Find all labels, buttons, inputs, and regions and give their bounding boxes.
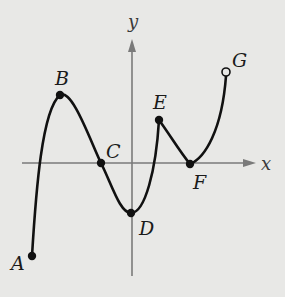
point-b-dot	[56, 91, 64, 99]
point-a-label: A	[9, 252, 25, 274]
point-c-dot	[97, 159, 105, 167]
graph-svg: x y A B C D E F G	[0, 0, 285, 297]
point-d-dot	[127, 209, 135, 217]
point-e-label: E	[152, 91, 167, 113]
point-b-label: B	[54, 67, 69, 89]
point-g-open-circle	[222, 68, 230, 76]
point-e-dot	[155, 116, 163, 124]
x-axis-label: x	[261, 153, 271, 174]
point-d-label: D	[138, 217, 154, 239]
point-f-label: F	[192, 171, 207, 193]
point-c-label: C	[106, 140, 121, 162]
function-curve-f-to-g	[190, 76, 226, 164]
point-a-dot	[28, 252, 36, 260]
point-g-label: G	[232, 49, 247, 71]
y-axis-label: y	[127, 11, 139, 32]
point-f-dot	[186, 160, 194, 168]
function-graph-diagram: x y A B C D E F G	[0, 0, 285, 297]
function-curve-e-to-f	[159, 120, 190, 164]
x-axis-arrow-icon	[243, 159, 256, 167]
y-axis-arrow-icon	[128, 39, 136, 52]
